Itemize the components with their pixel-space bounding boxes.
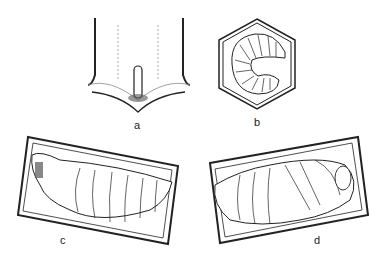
panel-d-drawing [210, 137, 368, 243]
panel-a-drawing [88, 18, 190, 112]
figure-illustration [0, 0, 385, 259]
panel-b-drawing [219, 19, 295, 109]
panel-a-label: a [134, 119, 140, 131]
panel-b-label: b [254, 116, 260, 128]
panel-c-drawing [18, 137, 178, 244]
panel-c-label: c [60, 234, 66, 246]
panel-d-label: d [314, 234, 320, 246]
